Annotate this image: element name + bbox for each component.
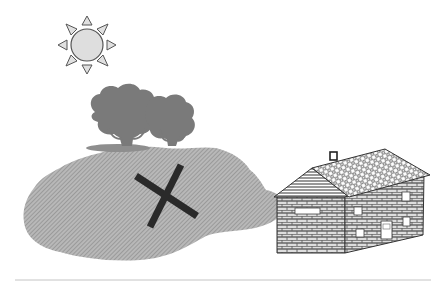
tree-icon: Trees <box>91 84 195 146</box>
window <box>356 229 364 237</box>
chimney <box>330 152 337 160</box>
sun-icon: Sun <box>58 16 116 74</box>
window <box>403 217 410 226</box>
door <box>381 221 392 239</box>
house-icon: Brick house <box>274 149 430 253</box>
illustration: Sun Hatched ground area Trees <box>0 0 446 292</box>
hatched-ground-area: Hatched ground area <box>23 144 283 261</box>
window <box>295 208 320 214</box>
window <box>402 192 410 201</box>
window <box>354 207 362 215</box>
